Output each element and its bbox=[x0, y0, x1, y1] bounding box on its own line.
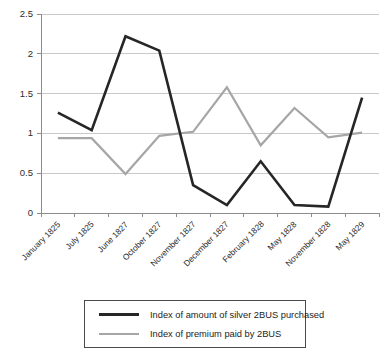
y-axis-tick-label: 2 bbox=[3, 49, 33, 59]
legend-item: Index of amount of silver 2BUS purchased bbox=[85, 305, 305, 324]
line-chart: 00.511.522.5 January 1825July 1825June 1… bbox=[0, 0, 390, 363]
y-axis-tick-label: 1 bbox=[3, 128, 33, 138]
y-axis-tick-label: 1.5 bbox=[3, 89, 33, 99]
series-line-silver-purchased bbox=[58, 36, 362, 206]
y-axis-tick-label: 0.5 bbox=[3, 168, 33, 178]
legend-item: Index of premium paid by 2BUS bbox=[85, 324, 305, 343]
chart-legend: Index of amount of silver 2BUS purchased… bbox=[84, 300, 306, 348]
y-axis-tick-label: 2.5 bbox=[3, 9, 33, 19]
legend-swatch-premium-paid bbox=[99, 333, 139, 335]
legend-label-silver-purchased: Index of amount of silver 2BUS purchased bbox=[150, 310, 324, 320]
legend-swatch-silver-purchased bbox=[99, 313, 139, 316]
legend-label-premium-paid: Index of premium paid by 2BUS bbox=[150, 329, 281, 339]
y-axis-tick-label: 0 bbox=[3, 208, 33, 218]
